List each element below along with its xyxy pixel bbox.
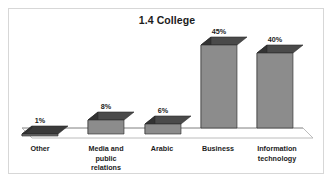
value-label-media-public-relations: 8% bbox=[84, 102, 128, 111]
bar-business bbox=[201, 37, 247, 128]
bar-information-technology bbox=[257, 45, 303, 128]
chart-container: 1.4 College bbox=[0, 0, 334, 185]
x-label-other: Other bbox=[12, 144, 68, 154]
bar-arabic-front bbox=[145, 124, 181, 134]
x-label-information-technology: Information technology bbox=[245, 144, 309, 163]
x-label-arabic: Arabic bbox=[134, 144, 190, 154]
value-label-business: 45% bbox=[197, 27, 241, 36]
x-label-media-public-relations: Media and public relations bbox=[74, 144, 138, 173]
bar-other-front bbox=[22, 134, 58, 136]
value-label-information-technology: 40% bbox=[253, 35, 297, 44]
value-label-arabic: 6% bbox=[141, 106, 185, 115]
x-label-business: Business bbox=[188, 144, 248, 154]
bar-media-front bbox=[88, 120, 124, 134]
bar-business-front bbox=[201, 45, 237, 128]
value-label-other: 1% bbox=[18, 116, 62, 125]
bar-it-front bbox=[257, 53, 293, 128]
